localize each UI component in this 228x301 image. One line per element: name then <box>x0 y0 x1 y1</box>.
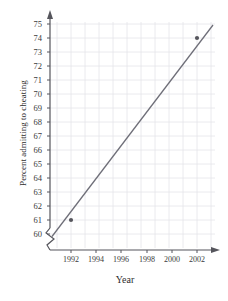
data-point-1992 <box>69 218 73 222</box>
x-tick-label-2002: 2002 <box>182 256 212 264</box>
x-axis-title: Year <box>45 274 205 285</box>
chart-figure: 75 74 73 72 71 70 69 68 67 66 65 64 63 6… <box>0 0 228 301</box>
trend-line <box>52 25 213 237</box>
x-axis-arrowhead <box>211 247 220 253</box>
y-tick-label-73: 73 <box>22 48 42 57</box>
y-axis-title: Percent admitting to cheating <box>18 58 28 208</box>
y-tick-label-75: 75 <box>22 20 42 29</box>
data-point-2002 <box>195 36 199 40</box>
y-axis-break-symbol <box>46 228 54 250</box>
y-tick-label-60: 60 <box>22 230 42 239</box>
y-tick-label-74: 74 <box>22 34 42 43</box>
y-axis-arrowhead <box>47 10 53 19</box>
y-tick-label-61: 61 <box>22 216 42 225</box>
vertical-gridlines <box>57 22 211 248</box>
